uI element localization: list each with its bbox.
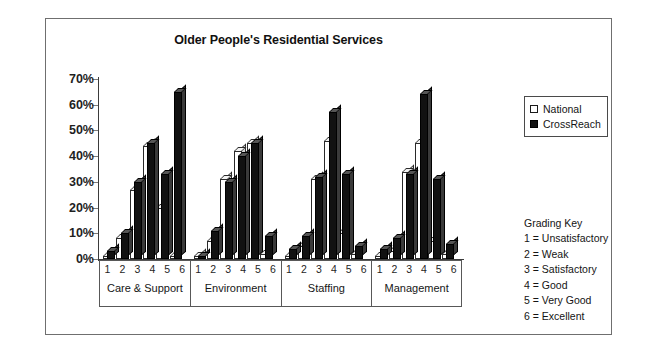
bar-crossreach	[329, 112, 337, 259]
bar-face	[198, 256, 206, 259]
bar-crossreach	[265, 236, 273, 259]
grade-tick-label: 6	[270, 263, 276, 276]
grade-tick-label: 4	[421, 263, 427, 276]
grading-key-row: 6 = Excellent	[524, 309, 644, 325]
grade-tick-label: 3	[134, 263, 140, 276]
y-axis-label: 10%	[69, 226, 94, 240]
bar-side	[169, 167, 173, 255]
bar-face	[161, 174, 169, 259]
bar-face	[121, 233, 129, 259]
y-axis-label: 0%	[76, 252, 94, 266]
grade-tick-label: 2	[120, 263, 126, 276]
bar-face	[380, 249, 388, 259]
bar-group	[281, 79, 372, 259]
bar-crossreach	[406, 174, 414, 259]
bar-face	[302, 236, 310, 259]
bar-side	[233, 174, 237, 255]
bar-group	[99, 79, 190, 259]
y-axis-label: 50%	[69, 123, 94, 137]
category-axis: 123456Care & Support123456Environment123…	[99, 260, 462, 307]
plot-area	[99, 79, 462, 259]
grade-tick-label: 6	[451, 263, 457, 276]
bar-face	[238, 156, 246, 259]
bar-crossreach	[315, 177, 323, 259]
bar-face	[211, 231, 219, 259]
grade-tick-label: 1	[105, 263, 111, 276]
bar-side	[142, 174, 146, 255]
grade-tick-label: 6	[361, 263, 367, 276]
grading-key-row: 2 = Weak	[524, 247, 644, 263]
grading-key-rows: 1 = Unsatisfactory2 = Weak3 = Satisfacto…	[524, 231, 644, 324]
bar-face	[251, 143, 259, 259]
bar-face	[289, 249, 297, 259]
grade-tick-label: 1	[195, 263, 201, 276]
bar-face	[107, 251, 115, 259]
grade-tick-label: 4	[240, 263, 246, 276]
grade-tick-label: 6	[179, 263, 185, 276]
bar-crossreach	[446, 244, 454, 259]
grade-tick-label: 5	[164, 263, 170, 276]
chart-legend: National CrossReach	[524, 96, 608, 137]
y-axis-label: 30%	[69, 175, 94, 189]
grade-tick-label: 1	[286, 263, 292, 276]
legend-item-crossreach[interactable]: CrossReach	[530, 116, 602, 131]
bar-crossreach	[211, 231, 219, 259]
bar-side	[337, 105, 341, 255]
grading-key-row: 3 = Satisfactory	[524, 262, 644, 278]
bar-crossreach	[342, 174, 350, 259]
bar-crossreach	[393, 238, 401, 259]
bar-face	[406, 174, 414, 259]
bar-crossreach	[107, 251, 115, 259]
bar-side	[441, 172, 445, 255]
bar-crossreach	[380, 249, 388, 259]
category-box: 123456Environment	[190, 260, 281, 307]
bar-face	[265, 236, 273, 259]
bar-face	[315, 177, 323, 259]
grade-tick-labels: 123456	[191, 263, 281, 276]
bar-face	[446, 244, 454, 259]
bar-face	[433, 179, 441, 259]
bar-face	[420, 94, 428, 259]
bar-group	[190, 79, 281, 259]
category-name: Management	[372, 282, 461, 294]
y-axis-label: 20%	[69, 201, 94, 215]
grade-tick-label: 5	[436, 263, 442, 276]
bar-side	[182, 84, 186, 255]
bar-face	[342, 174, 350, 259]
bar-crossreach	[433, 179, 441, 259]
bar-crossreach	[161, 174, 169, 259]
grade-tick-label: 5	[255, 263, 261, 276]
legend-item-national[interactable]: National	[530, 101, 602, 116]
bar-face	[174, 92, 182, 259]
category-name: Care & Support	[100, 282, 190, 294]
category-name: Environment	[191, 282, 281, 294]
filled-square-icon	[530, 120, 538, 128]
bar-side	[323, 169, 327, 255]
bar-face	[147, 143, 155, 259]
bar-side	[428, 87, 432, 255]
legend-item-label: CrossReach	[543, 118, 601, 130]
bar-crossreach	[174, 92, 182, 259]
bar-crossreach	[289, 249, 297, 259]
y-axis-label: 40%	[69, 149, 94, 163]
grade-tick-label: 4	[331, 263, 337, 276]
grading-key-row: 4 = Good	[524, 278, 644, 294]
category-name: Staffing	[282, 282, 372, 294]
chart-frame: Older People's Residential Services 70%6…	[45, 18, 612, 335]
category-box: 123456Management	[371, 260, 462, 307]
grade-tick-label: 3	[406, 263, 412, 276]
bar-side	[259, 136, 263, 255]
bar-face	[393, 238, 401, 259]
grade-tick-labels: 123456	[372, 263, 461, 276]
bar-crossreach	[198, 256, 206, 259]
grade-tick-label: 2	[392, 263, 398, 276]
grading-key-title: Grading Key	[524, 217, 644, 229]
y-axis-label: 70%	[69, 72, 94, 86]
grade-tick-label: 5	[346, 263, 352, 276]
bar-side	[246, 149, 250, 255]
grade-tick-label: 3	[316, 263, 322, 276]
bar-crossreach	[420, 94, 428, 259]
legend-item-label: National	[543, 103, 582, 115]
bar-crossreach	[134, 182, 142, 259]
grading-key-row: 1 = Unsatisfactory	[524, 231, 644, 247]
